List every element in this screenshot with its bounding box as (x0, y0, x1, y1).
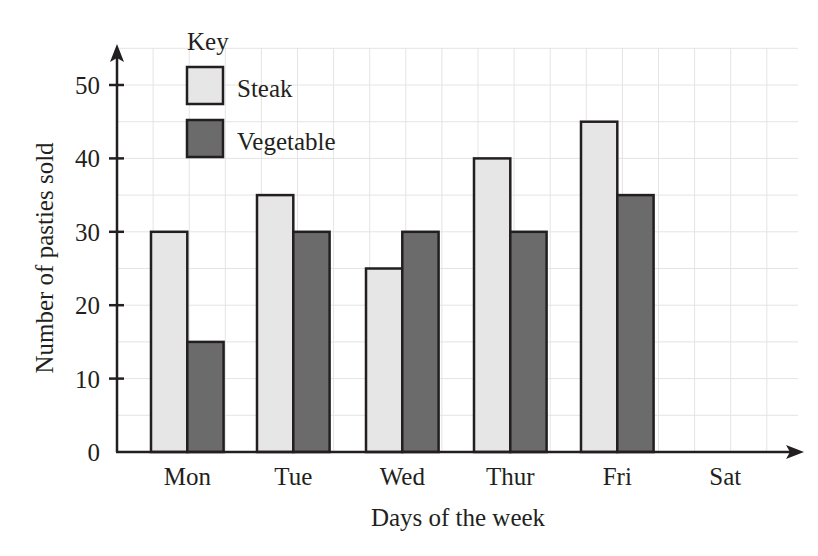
bar-vegetable-fri (617, 195, 653, 452)
bar-vegetable-mon (187, 342, 223, 452)
legend-title: Key (187, 28, 229, 55)
x-ticks: MonTueWedThurFriSat (164, 463, 742, 490)
x-tick-label: Fri (603, 463, 632, 490)
bar-vegetable-tue (293, 232, 329, 452)
bar-steak-fri (581, 122, 617, 452)
y-tick-label: 40 (75, 145, 100, 172)
y-axis-label: Number of pasties sold (31, 142, 58, 374)
y-tick-label: 10 (75, 366, 100, 393)
bar-vegetable-wed (402, 232, 438, 452)
bar-steak-mon (151, 232, 187, 452)
x-tick-label: Wed (380, 463, 426, 490)
legend-label-steak: Steak (237, 75, 293, 102)
legend-swatch-steak (187, 67, 223, 104)
legend: Key Steak Vegetable (187, 28, 336, 157)
legend-label-vegetable: Vegetable (237, 128, 336, 155)
x-axis-label: Days of the week (371, 504, 546, 531)
y-tick-label: 20 (75, 292, 100, 319)
y-tick-label: 50 (75, 72, 100, 99)
bar-steak-tue (257, 195, 293, 452)
x-tick-label: Thur (486, 463, 535, 490)
bar-steak-wed (366, 269, 402, 453)
bar-steak-thur (474, 158, 510, 452)
x-tick-label: Mon (164, 463, 212, 490)
bar-vegetable-thur (510, 232, 546, 452)
y-tick-label: 30 (75, 219, 100, 246)
x-tick-label: Tue (274, 463, 312, 490)
y-tick-label: 0 (88, 439, 101, 466)
bars (151, 122, 654, 452)
bar-chart: 01020304050 MonTueWedThurFriSat Days of … (0, 0, 818, 556)
legend-swatch-vegetable (187, 120, 223, 157)
x-tick-label: Sat (709, 463, 741, 490)
